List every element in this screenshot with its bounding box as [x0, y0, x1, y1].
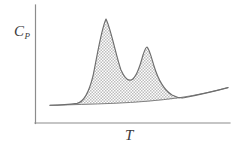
- y-axis-label-main: C: [14, 23, 24, 39]
- y-axis-label-subscript: P: [24, 31, 30, 41]
- figure-container: CP T: [0, 0, 238, 153]
- cp-vs-t-plot: [0, 0, 238, 153]
- x-axis-label: T: [125, 128, 133, 143]
- y-axis-label: CP: [14, 24, 30, 41]
